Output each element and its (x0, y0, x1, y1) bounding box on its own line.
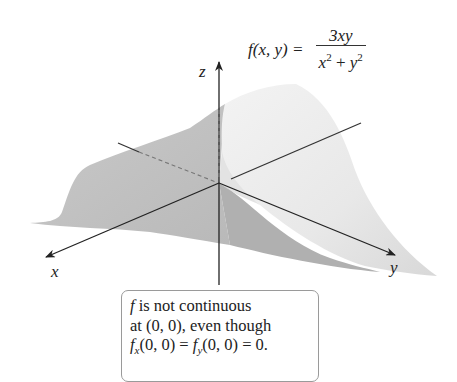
z-axis-label: z (199, 62, 206, 82)
y-axis-label: y (390, 258, 398, 278)
formula-denominator: x2 + y2 (316, 45, 366, 73)
formula-numerator: 3xy (326, 27, 356, 45)
x-axis-label: x (51, 262, 59, 282)
annotation-box: f is not continuous at (0, 0), even thou… (121, 290, 319, 382)
note-line-1: f is not continuous (130, 296, 318, 316)
function-formula: f(x, y) = 3xy x2 + y2 (248, 27, 366, 73)
formula-fraction: 3xy x2 + y2 (316, 27, 366, 73)
surface-left-region (30, 104, 230, 245)
formula-lhs: f(x, y) = (248, 40, 308, 60)
note-line-2: at (0, 0), even though (130, 316, 318, 336)
note-line-3: fx(0, 0) = fy(0, 0) = 0. (130, 335, 318, 361)
